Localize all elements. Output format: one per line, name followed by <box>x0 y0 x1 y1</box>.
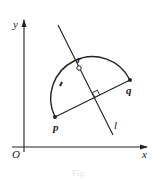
point-q-label: q <box>126 84 132 96</box>
point-r <box>77 66 81 70</box>
y-axis-label: y <box>12 18 18 30</box>
origin-label: O <box>12 148 20 160</box>
figure-caption: Fig. <box>72 168 86 178</box>
point-p-label: p <box>52 121 59 133</box>
line-l <box>58 25 113 135</box>
x-axis-label: x <box>141 148 147 160</box>
arc-direction-mark <box>60 82 62 86</box>
point-p <box>53 115 57 119</box>
point-r-label: r <box>77 53 82 65</box>
line-l-label: l <box>114 119 117 131</box>
geometry-diagram: y x O p q r l Fig. <box>0 0 161 181</box>
arc-pq <box>51 57 130 117</box>
point-q <box>128 78 132 82</box>
segment-pq <box>55 80 130 117</box>
